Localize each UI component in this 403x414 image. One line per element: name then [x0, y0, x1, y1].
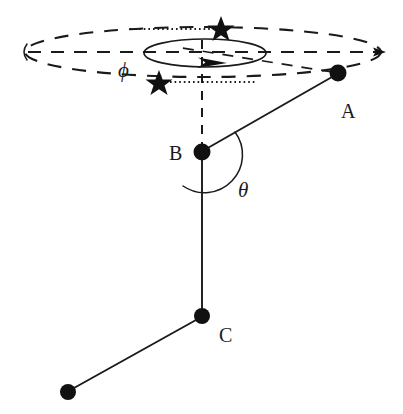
theta-angle-arc [183, 132, 243, 193]
star-upper-icon [208, 16, 235, 41]
node-d [60, 384, 76, 400]
label-point-a: A [341, 100, 356, 122]
node-c [194, 308, 210, 324]
label-point-c: C [219, 324, 232, 346]
node-a [330, 65, 347, 82]
label-point-b: B [169, 142, 182, 164]
pendulum-diagram: A B C ϕ θ [0, 0, 403, 414]
label-angle-phi: ϕ [118, 58, 129, 82]
segment-cd [74, 320, 196, 388]
segment-ab [206, 77, 332, 149]
node-b [194, 144, 211, 161]
label-angle-theta: θ [238, 178, 248, 202]
star-lower-icon [146, 70, 173, 95]
leader-line-a-to-ring [176, 47, 332, 72]
figure-canvas: A B C ϕ θ [0, 0, 403, 414]
axis-left-bracket-icon [24, 44, 27, 60]
